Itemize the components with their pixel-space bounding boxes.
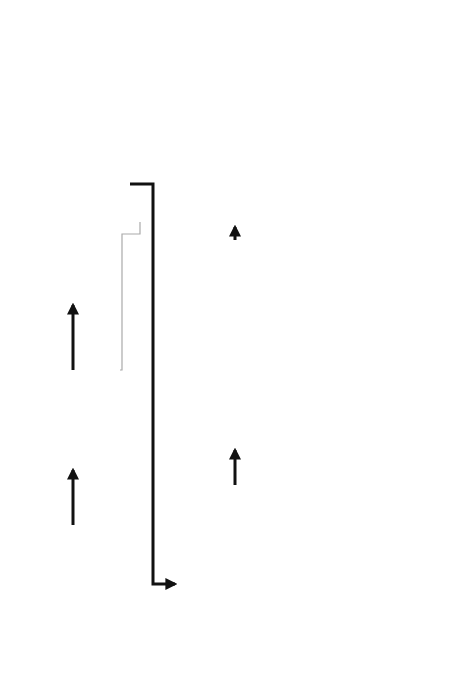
flowchart — [0, 0, 456, 684]
edge-targets-to-screen — [120, 222, 140, 370]
rotated-diagram — [73, 184, 235, 584]
edges — [73, 184, 235, 584]
diagram-canvas — [0, 0, 456, 684]
edge-map-to-functional — [130, 184, 175, 584]
